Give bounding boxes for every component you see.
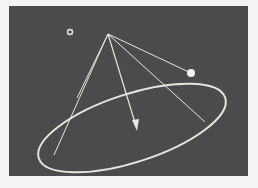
cone-edge-left (54, 34, 108, 155)
control-point-handle[interactable] (187, 69, 195, 77)
arrow-head-icon (132, 119, 139, 131)
cone-edge-far-right (108, 34, 205, 122)
cone-edge-mid-left (77, 34, 108, 98)
axis-arrow-shaft (108, 34, 136, 126)
small-marker-icon[interactable] (68, 30, 73, 35)
cone-edge-right (108, 34, 191, 73)
base-ellipse (28, 65, 235, 188)
cone-diagram (0, 0, 258, 188)
